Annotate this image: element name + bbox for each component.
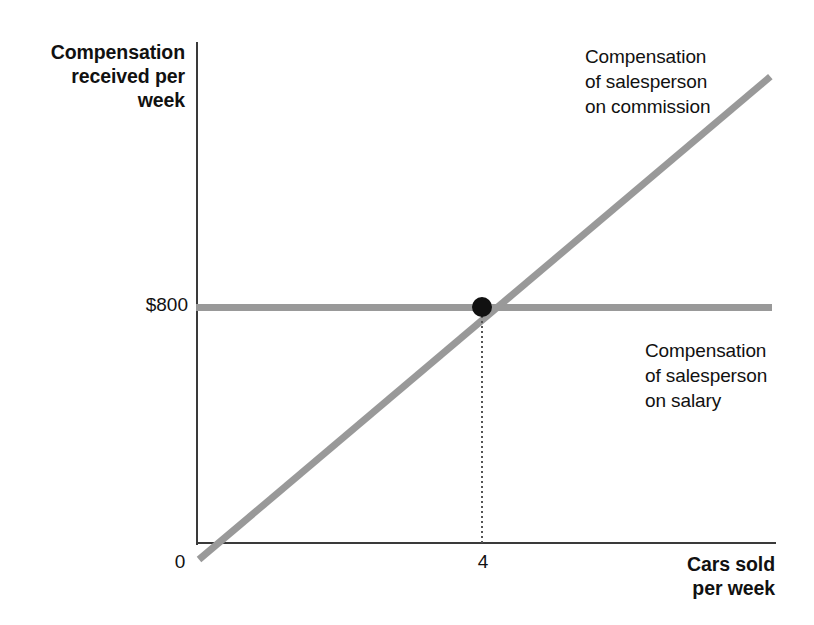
y-axis-tick-label-800: $800 [146,294,188,316]
x-axis-line [196,542,776,544]
y-axis-line [196,42,198,545]
y-axis-title: Compensation received per week [51,40,185,112]
commission-compensation-line [197,74,773,562]
commission-series-annotation: Compensation of salesperson on commissio… [585,44,710,119]
intersection-dropline [481,316,483,543]
x-axis-tick-label-4: 4 [472,551,494,573]
intersection-point-marker [472,297,492,317]
salary-series-annotation: Compensation of salesperson on salary [645,338,767,413]
origin-tick-label: 0 [169,551,191,573]
x-axis-title: Cars sold per week [687,552,775,600]
compensation-line-chart: Compensation received per week Cars sold… [0,0,814,625]
